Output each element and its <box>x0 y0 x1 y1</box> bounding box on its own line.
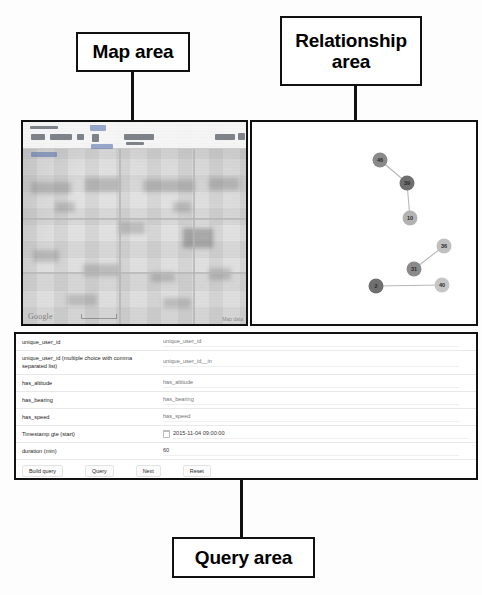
annotated-figure: Map area Relationship area Query area <box>0 0 482 595</box>
callout-relationship-line-2: area <box>332 51 370 72</box>
query-field-label: has_speed <box>16 408 157 425</box>
query-field-cell <box>157 442 476 459</box>
map-blob <box>31 182 71 194</box>
map-toolbar-chip[interactable] <box>30 126 58 129</box>
map-blob <box>33 250 59 262</box>
callout-query-area: Query area <box>172 537 315 578</box>
query-form-row: Timestamp gte (start) <box>16 425 476 442</box>
query-field-cell <box>157 334 476 351</box>
query-field-label: unique_user_id <box>16 334 157 351</box>
map-toolbar-chip[interactable] <box>126 142 144 145</box>
map-blob <box>55 202 75 212</box>
query-field-label: has_bearing <box>16 391 157 408</box>
reset-button[interactable]: Reset <box>183 465 211 477</box>
map-road <box>119 148 121 324</box>
graph-edge <box>376 285 442 286</box>
graph-node-label: 46 <box>377 157 383 163</box>
graph-node[interactable]: 46 <box>373 153 388 168</box>
datetime-field-wrapper <box>163 429 471 439</box>
query-form-row: has_bearing <box>16 391 476 408</box>
map-blob <box>173 202 191 212</box>
query-form-row: unique_user_id (multiple choice with com… <box>16 351 476 375</box>
query-form: unique_user_idunique_user_id (multiple c… <box>16 334 476 480</box>
query-field-cell <box>157 408 476 425</box>
query-form-button-row: Build queryQueryNextReset <box>16 459 476 480</box>
query-input-unique-user-id-in[interactable] <box>163 357 459 367</box>
query-panel[interactable]: unique_user_idunique_user_id (multiple c… <box>14 332 478 480</box>
map-toolbar-chip[interactable] <box>92 134 99 142</box>
query-input-has-bearing[interactable] <box>163 395 459 405</box>
map-toolbar-chip[interactable] <box>77 134 84 140</box>
query-input-unique-user-id[interactable] <box>163 337 459 347</box>
graph-node-label: 10 <box>407 215 413 221</box>
map-toolbar-chip[interactable] <box>31 152 57 157</box>
graph-node[interactable]: 39 <box>400 176 415 191</box>
next-button[interactable]: Next <box>136 465 161 477</box>
map-road <box>23 272 247 274</box>
graph-node-label: 31 <box>411 266 417 272</box>
graph-node-label: 40 <box>439 282 445 288</box>
map-provider-watermark: Google <box>28 312 53 321</box>
map-toolbar-chip[interactable] <box>238 133 245 140</box>
map-blob <box>85 178 119 192</box>
map-road <box>23 218 247 220</box>
map-panel[interactable]: Google Map data <box>21 120 248 326</box>
relationship-panel[interactable]: 4639103631240 <box>250 120 478 326</box>
query-input-has-speed[interactable] <box>163 412 459 422</box>
map-toolbar-chip[interactable] <box>124 134 154 140</box>
map-blob <box>143 180 195 192</box>
map-blob <box>209 178 239 190</box>
query-button[interactable]: Query <box>85 465 114 477</box>
graph-node-label: 36 <box>441 243 447 249</box>
query-input-timestamp-gte-start-[interactable] <box>173 429 469 439</box>
graph-node[interactable]: 40 <box>435 278 450 293</box>
query-form-row: has_speed <box>16 408 476 425</box>
graph-node[interactable]: 10 <box>403 211 418 226</box>
query-field-label: has_altitude <box>16 374 157 391</box>
map-blob <box>183 228 213 248</box>
query-field-cell <box>157 351 476 375</box>
map-attribution: Map data <box>222 316 243 322</box>
map-blob <box>163 298 191 308</box>
graph-node-label: 2 <box>374 283 377 289</box>
query-field-label: Timestamp gte (start) <box>16 425 157 442</box>
query-buttons: Build queryQueryNextReset <box>22 465 470 477</box>
calendar-icon[interactable] <box>163 430 170 438</box>
map-blob <box>209 268 231 280</box>
map-toolbar-chip[interactable] <box>91 144 113 149</box>
build-query-button[interactable]: Build query <box>22 465 63 477</box>
callout-relationship-line-1: Relationship <box>295 30 407 51</box>
query-form-row: has_altitude <box>16 374 476 391</box>
callout-query-area-label: Query area <box>195 547 292 568</box>
map-scale-bar <box>81 314 117 319</box>
callout-map-area: Map area <box>76 32 190 72</box>
map-blob <box>67 294 97 306</box>
map-road <box>193 148 195 324</box>
map-blob <box>119 222 145 234</box>
map-toolbar-chip[interactable] <box>215 134 235 140</box>
query-field-cell <box>157 374 476 391</box>
map-toolbar-chip[interactable] <box>90 125 106 131</box>
query-form-row: unique_user_id <box>16 334 476 351</box>
map-toolbar-chip[interactable] <box>31 134 45 140</box>
query-field-label: duration (min) <box>16 442 157 459</box>
query-form-row: duration (min) <box>16 442 476 459</box>
callout-relationship-area: Relationship area <box>280 16 422 86</box>
relationship-graph[interactable]: 4639103631240 <box>252 122 476 324</box>
query-input-duration-min-[interactable] <box>163 446 459 456</box>
query-field-cell <box>157 425 476 442</box>
callout-relationship-area-label: Relationship area <box>295 30 407 73</box>
graph-node[interactable]: 2 <box>369 279 384 294</box>
map-blob <box>151 272 175 282</box>
callout-map-area-label: Map area <box>93 41 174 62</box>
graph-node[interactable]: 36 <box>437 239 452 254</box>
graph-node[interactable]: 31 <box>407 262 422 277</box>
graph-node-label: 39 <box>404 180 410 186</box>
graph-node-group[interactable]: 4639103631240 <box>369 153 452 294</box>
query-field-label: unique_user_id (multiple choice with com… <box>16 351 157 375</box>
query-field-cell <box>157 391 476 408</box>
map-toolbar-chip[interactable] <box>50 134 72 140</box>
map-blob <box>83 264 119 276</box>
query-input-has-altitude[interactable] <box>163 378 459 388</box>
